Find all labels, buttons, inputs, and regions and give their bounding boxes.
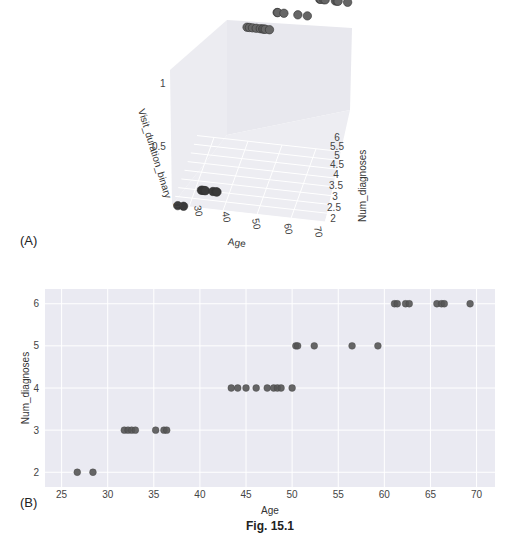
figure: 1 0.5 0 Visit_duration_binary 30 40 50 6… xyxy=(0,0,505,534)
x-tick: 40 xyxy=(194,489,206,500)
data-point-3d xyxy=(294,11,302,19)
data-point xyxy=(394,300,401,307)
panel-a-3d-scatter: 1 0.5 0 Visit_duration_binary 30 40 50 6… xyxy=(20,0,368,249)
panel-b-2d-scatter: 25303540455055606570 23456 Age Num_diagn… xyxy=(20,289,495,516)
x-tick: 60 xyxy=(379,489,391,500)
x-tick: 50 xyxy=(250,217,263,230)
data-point xyxy=(406,300,413,307)
panel-b-label: (B) xyxy=(20,495,37,510)
figure-caption: Fig. 15.1 xyxy=(246,519,294,533)
y-ticks: 23456 xyxy=(33,298,39,478)
y-tick: 2.5 xyxy=(327,202,341,213)
y-tick: 2 xyxy=(330,213,336,224)
x-tick: 70 xyxy=(471,489,483,500)
x-tick: 30 xyxy=(102,489,114,500)
x-tick: 50 xyxy=(287,489,299,500)
data-point xyxy=(467,300,474,307)
x-tick: 55 xyxy=(333,489,345,500)
data-point-3d xyxy=(334,0,342,5)
x-tick: 30 xyxy=(192,204,205,217)
data-point xyxy=(311,342,318,349)
y-tick: 3 xyxy=(332,191,338,202)
x-ticks: 25303540455055606570 xyxy=(56,489,483,500)
x-axis-label: Age xyxy=(227,236,247,249)
y-tick: 6 xyxy=(33,298,39,309)
z-axis-label: Visit_duration_binary xyxy=(136,107,174,199)
data-point xyxy=(253,385,260,392)
data-point-3d xyxy=(280,9,288,17)
y-tick: 4 xyxy=(33,383,39,394)
data-point xyxy=(90,469,97,476)
y-axis-label: Num_diagnoses xyxy=(20,352,31,424)
y-tick: 3.5 xyxy=(329,180,343,191)
y-axis-label: Num_diagnoses xyxy=(357,150,368,222)
x-tick: 35 xyxy=(148,489,160,500)
data-point xyxy=(152,427,159,434)
y-tick: 4 xyxy=(333,169,339,180)
z-tick: 1 xyxy=(160,78,166,89)
data-point xyxy=(374,342,381,349)
x-tick: 65 xyxy=(425,489,437,500)
y-tick: 5 xyxy=(33,340,39,351)
data-point xyxy=(294,342,301,349)
panel-a-label: (A) xyxy=(20,233,37,248)
data-point xyxy=(349,342,356,349)
data-point xyxy=(289,385,296,392)
x-tick: 45 xyxy=(240,489,252,500)
x-tick: 60 xyxy=(282,222,295,235)
data-point xyxy=(228,385,235,392)
data-point-3d xyxy=(265,26,273,34)
x-tick: 70 xyxy=(312,225,325,238)
data-point xyxy=(264,385,271,392)
x-tick: 40 xyxy=(220,210,233,223)
data-point xyxy=(74,469,81,476)
data-point xyxy=(163,427,170,434)
x-axis-label: Age xyxy=(261,505,279,516)
x-tick: 25 xyxy=(56,489,68,500)
data-point-3d xyxy=(303,12,311,20)
data-point xyxy=(243,385,250,392)
y-tick: 2 xyxy=(33,467,39,478)
data-point xyxy=(234,385,241,392)
data-point xyxy=(441,300,448,307)
data-point xyxy=(132,427,139,434)
data-point-3d xyxy=(201,186,209,194)
y-tick: 3 xyxy=(33,425,39,436)
data-point-3d xyxy=(213,188,221,196)
data-point-3d xyxy=(343,0,351,6)
data-point xyxy=(278,385,285,392)
